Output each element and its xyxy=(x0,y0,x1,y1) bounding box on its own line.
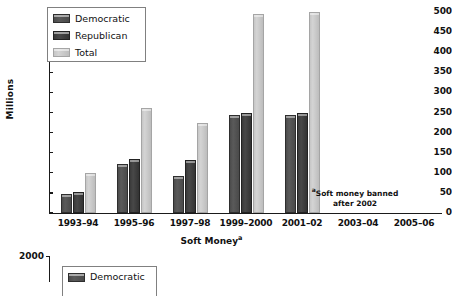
y-axis-tick-label: 100 xyxy=(408,167,452,177)
bar-total-2001-02 xyxy=(309,12,320,213)
bar-republican-1993-94 xyxy=(73,192,84,213)
bar-highlight xyxy=(62,195,71,197)
bar-democratic-1995-96 xyxy=(117,164,128,213)
bar-republican-1997-98 xyxy=(185,160,196,213)
y-axis-tick xyxy=(49,172,53,173)
x-axis-label-superscript: a xyxy=(238,234,242,242)
y-axis-tick-label: 450 xyxy=(408,26,452,36)
x-axis-tick-label: 1995–96 xyxy=(104,218,164,228)
bar-highlight xyxy=(254,15,263,17)
x-axis-tick-label: 1999–2000 xyxy=(216,218,276,228)
bar-highlight xyxy=(142,109,151,111)
bar-total-1995-96 xyxy=(141,108,152,213)
y-axis-tick xyxy=(49,152,53,153)
bar-democratic-1993-94 xyxy=(61,194,72,213)
second-chart-legend-item-democratic: Democratic xyxy=(68,272,145,282)
legend-swatch-total-icon xyxy=(53,48,70,57)
legend-swatch-democratic-icon xyxy=(53,14,70,23)
legend-item-total: Total xyxy=(53,46,97,59)
y-axis-tick-label: 250 xyxy=(408,107,452,117)
legend-label-total: Total xyxy=(75,48,97,58)
y-axis-tick-label: 400 xyxy=(408,46,452,56)
footnote-line-1: Soft money banned xyxy=(316,189,398,198)
x-axis-label: Soft Moneya xyxy=(49,234,374,246)
legend-swatch-republican-icon xyxy=(53,31,70,40)
second-chart-legend-label-democratic: Democratic xyxy=(90,272,145,282)
bar-highlight xyxy=(242,114,251,116)
second-chart-legend: Democratic xyxy=(62,266,157,296)
y-axis-tick-label: 50 xyxy=(408,187,452,197)
legend-item-republican: Republican xyxy=(53,29,127,42)
y-axis-tick xyxy=(49,72,53,73)
bar-republican-1995-96 xyxy=(129,159,140,213)
x-axis-tick-label: 1993–94 xyxy=(48,218,108,228)
bar-democratic-1997-98 xyxy=(173,176,184,213)
bar-democratic-2001-02 xyxy=(285,115,296,213)
bar-highlight xyxy=(230,116,239,118)
bar-democratic-1999-2000 xyxy=(229,115,240,213)
y-axis-tick xyxy=(49,132,53,133)
bar-highlight xyxy=(298,114,307,116)
x-axis-tick-label: 1997–98 xyxy=(160,218,220,228)
bar-highlight xyxy=(86,174,95,176)
bar-highlight xyxy=(198,124,207,126)
footnote-annotation: aSoft money banned after 2002 xyxy=(300,185,410,209)
y-axis-tick-label: 500 xyxy=(408,6,452,16)
bar-total-1997-98 xyxy=(197,123,208,213)
bar-highlight xyxy=(174,177,183,179)
y-axis-tick xyxy=(49,112,53,113)
bar-total-1999-2000 xyxy=(253,14,264,213)
second-chart-y-tick-label: 2000 xyxy=(8,251,44,261)
bar-highlight xyxy=(186,161,195,163)
y-axis-tick-label: 350 xyxy=(408,66,452,76)
y-axis-tick-label: 300 xyxy=(408,86,452,96)
x-axis-tick-label: 2003–04 xyxy=(328,218,388,228)
bar-highlight xyxy=(74,193,83,195)
bar-highlight xyxy=(310,13,319,15)
bar-highlight xyxy=(286,116,295,118)
second-chart-y-axis-line xyxy=(49,256,50,282)
y-axis-label: Millions xyxy=(5,64,15,134)
y-axis-tick xyxy=(49,192,53,193)
y-axis-tick xyxy=(49,92,53,93)
x-axis-tick-label: 2001–02 xyxy=(272,218,332,228)
bar-highlight xyxy=(118,165,127,167)
legend-label-republican: Republican xyxy=(75,31,127,41)
bar-highlight xyxy=(130,160,139,162)
legend-item-democratic: Democratic xyxy=(53,12,130,25)
legend-label-democratic: Democratic xyxy=(75,14,130,24)
x-axis-tick-label: 2005–06 xyxy=(384,218,444,228)
footnote-line-2: after 2002 xyxy=(333,199,377,208)
y-axis-tick-label: 0 xyxy=(408,207,452,217)
bar-total-1993-94 xyxy=(85,173,96,213)
legend: Democratic Republican Total xyxy=(47,7,146,62)
bar-republican-1999-2000 xyxy=(241,113,252,213)
y-axis-tick-label: 150 xyxy=(408,147,452,157)
x-axis-label-text: Soft Money xyxy=(181,236,239,246)
x-axis-line xyxy=(49,213,442,214)
y-axis-tick-label: 200 xyxy=(408,127,452,137)
second-chart-legend-swatch-democratic-icon xyxy=(68,273,85,282)
